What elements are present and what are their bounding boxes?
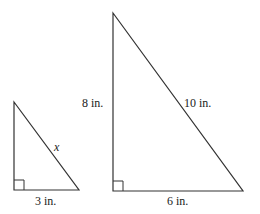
- large-triangle: 8 in. 10 in. 6 in.: [82, 13, 243, 208]
- large-base-label: 6 in.: [167, 194, 188, 208]
- right-angle-marker: [113, 181, 123, 191]
- similar-triangles-diagram: x 3 in. 8 in. 10 in. 6 in.: [0, 0, 260, 214]
- small-triangle: x 3 in.: [14, 102, 79, 208]
- large-hypotenuse-label: 10 in.: [184, 96, 211, 110]
- small-hypotenuse-label: x: [53, 140, 60, 154]
- small-base-label: 3 in.: [35, 194, 56, 208]
- right-angle-marker: [14, 180, 24, 190]
- large-height-label: 8 in.: [82, 96, 103, 110]
